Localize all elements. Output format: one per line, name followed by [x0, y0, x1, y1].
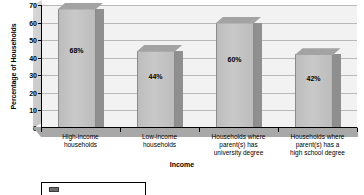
- y-tick-label: 60: [29, 19, 37, 26]
- x-category-label: Households whereparent(s) hasuniversity …: [199, 133, 278, 157]
- bar-top-face: [58, 3, 104, 10]
- bar-side-face: [96, 9, 104, 128]
- bar-front-face: [216, 23, 254, 128]
- x-category-label-line: Households where: [199, 133, 278, 141]
- x-category-label-line: parent(s) has a: [278, 141, 357, 149]
- y-tick-label: 50: [29, 37, 37, 44]
- x-category-label: Households whereparent(s) has ahigh scho…: [278, 133, 357, 157]
- y-axis-title: Percentage of Households: [10, 7, 17, 127]
- bar-front-face: [137, 51, 175, 128]
- y-tick-label: 70: [29, 2, 37, 9]
- bar-side-face: [333, 54, 341, 128]
- y-tick-label: 10: [29, 107, 37, 114]
- bar-chart: Percentage of Households 010203040506070…: [0, 0, 364, 195]
- bar-side-face: [254, 23, 262, 128]
- bar-value-label: 42%: [295, 75, 333, 82]
- bar: 60%: [216, 23, 254, 128]
- x-category-label-line: households: [120, 141, 199, 149]
- bar-top-face: [216, 17, 262, 24]
- x-tick-mark: [278, 128, 279, 132]
- bar-value-label: 44%: [137, 73, 175, 80]
- bar-front-face: [58, 9, 96, 128]
- bar-top-face: [137, 45, 183, 52]
- x-axis-title: Income: [0, 161, 364, 168]
- x-category-label-line: high school degree: [278, 149, 357, 157]
- y-axis-line: [41, 5, 42, 128]
- x-category-label-line: households: [41, 141, 120, 149]
- legend: [41, 182, 146, 195]
- x-category-label-line: High-income: [41, 133, 120, 141]
- bar: 44%: [137, 51, 175, 128]
- x-tick-mark: [41, 128, 42, 132]
- bar: 42%: [295, 54, 333, 128]
- x-tick-mark: [199, 128, 200, 132]
- bar: 68%: [58, 9, 96, 128]
- bar-value-label: 68%: [58, 47, 96, 54]
- bar-side-face: [175, 51, 183, 128]
- bar-value-label: 60%: [216, 56, 254, 63]
- y-tick-label: 20: [29, 89, 37, 96]
- x-tick-mark: [357, 128, 358, 132]
- x-category-label-line: Low-income: [120, 133, 199, 141]
- y-tick-label: 40: [29, 54, 37, 61]
- x-category-label-line: university degree: [199, 149, 278, 157]
- x-category-label-line: Households where: [278, 133, 357, 141]
- x-category-label-line: parent(s) has: [199, 141, 278, 149]
- bar-top-face: [295, 48, 341, 55]
- plot-area: 010203040506070 68%44%60%42%: [41, 5, 357, 128]
- x-category-label: Low-incomehouseholds: [120, 133, 199, 149]
- x-category-label: High-incomehouseholds: [41, 133, 120, 149]
- bar-front-face: [295, 54, 333, 128]
- x-tick-mark: [120, 128, 121, 132]
- legend-swatch-icon: [49, 187, 59, 192]
- y-tick-label: 30: [29, 72, 37, 79]
